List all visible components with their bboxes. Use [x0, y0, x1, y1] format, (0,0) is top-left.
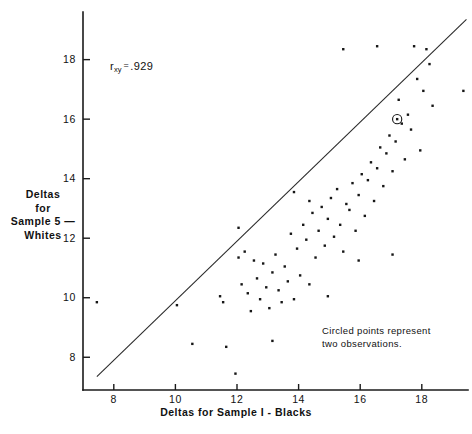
data-point — [293, 298, 295, 300]
data-point — [394, 140, 396, 142]
data-point — [462, 90, 464, 92]
data-point — [419, 149, 421, 151]
data-point — [317, 230, 319, 232]
data-point — [314, 256, 316, 258]
data-point — [305, 238, 307, 240]
tick-labels-group: 8101214161881012141618 — [63, 53, 428, 405]
data-point — [219, 295, 221, 297]
data-point — [431, 105, 433, 107]
x-axis-tick-label: 10 — [169, 393, 182, 405]
data-point — [324, 244, 326, 246]
data-point — [398, 99, 400, 101]
data-point — [428, 63, 430, 65]
data-point — [345, 203, 347, 205]
data-point — [342, 48, 344, 50]
data-point — [274, 253, 276, 255]
x-axis-title: Deltas for Sample I - Blacks — [0, 406, 472, 418]
correlation-subscript: xy — [114, 65, 122, 74]
data-point — [259, 298, 261, 300]
data-point — [96, 301, 98, 303]
data-point — [311, 212, 313, 214]
data-point — [361, 173, 363, 175]
data-point — [308, 200, 310, 202]
y-axis-tick-label: 14 — [63, 172, 76, 184]
data-point — [284, 265, 286, 267]
note-line-2: two observations. — [322, 337, 431, 350]
data-point — [225, 346, 227, 348]
data-point — [370, 161, 372, 163]
data-point — [234, 372, 236, 374]
data-point — [290, 233, 292, 235]
data-point — [382, 185, 384, 187]
data-point — [253, 259, 255, 261]
y-axis-title-line-2: for — [6, 202, 80, 216]
circled-point-dot — [396, 118, 398, 120]
y-axis-tick-label: 16 — [63, 113, 76, 125]
data-point — [176, 304, 178, 306]
y-axis-tick-label: 10 — [63, 291, 76, 303]
data-point — [422, 90, 424, 92]
data-point — [407, 113, 409, 115]
data-point — [299, 274, 301, 276]
data-point — [237, 227, 239, 229]
data-point — [308, 283, 310, 285]
data-point — [357, 194, 359, 196]
data-point — [296, 247, 298, 249]
data-point — [333, 236, 335, 238]
data-point — [388, 134, 390, 136]
correlation-equals: = — [124, 60, 130, 70]
data-point — [401, 122, 403, 124]
x-axis-tick-label: 12 — [231, 393, 244, 405]
data-point — [416, 78, 418, 80]
data-point — [376, 45, 378, 47]
x-axis-tick-label: 16 — [354, 393, 367, 405]
data-point — [256, 277, 258, 279]
scatter-plot-figure: 8101214161881012141618 rxy=.929 Circled … — [0, 0, 472, 434]
note-line-1: Circled points represent — [322, 324, 431, 337]
data-point — [244, 250, 246, 252]
data-point — [425, 48, 427, 50]
x-axis-tick-label: 18 — [415, 393, 428, 405]
data-point — [327, 218, 329, 220]
data-point — [413, 45, 415, 47]
data-point — [376, 167, 378, 169]
data-point — [280, 301, 282, 303]
data-point — [410, 128, 412, 130]
data-point — [287, 280, 289, 282]
data-point — [271, 271, 273, 273]
x-axis-tick-label: 8 — [111, 393, 117, 405]
data-point — [265, 286, 267, 288]
data-point — [364, 215, 366, 217]
data-point — [237, 256, 239, 258]
y-axis-title-line-4: Whites — [6, 229, 80, 243]
y-axis-title-line-1: Deltas — [6, 188, 80, 202]
data-point — [191, 343, 193, 345]
data-point — [327, 295, 329, 297]
circled-points-note: Circled points represent two observation… — [322, 324, 431, 350]
correlation-annotation: rxy=.929 — [110, 60, 153, 74]
circled-points-group — [393, 115, 402, 124]
data-point — [277, 289, 279, 291]
data-point — [391, 253, 393, 255]
data-point — [222, 301, 224, 303]
data-point — [342, 250, 344, 252]
data-point — [247, 292, 249, 294]
data-point — [348, 209, 350, 211]
data-point — [367, 179, 369, 181]
data-point — [404, 158, 406, 160]
y-axis-title: Deltas for Sample 5 — Whites — [6, 188, 80, 242]
y-axis-title-line-3: Sample 5 — — [6, 215, 80, 229]
data-point — [268, 307, 270, 309]
y-axis-tick-label: 18 — [63, 53, 76, 65]
correlation-value: .929 — [130, 60, 153, 72]
data-point — [330, 197, 332, 199]
data-point — [262, 262, 264, 264]
data-point — [385, 152, 387, 154]
data-point — [321, 206, 323, 208]
data-point — [351, 182, 353, 184]
data-point — [373, 200, 375, 202]
data-point — [391, 170, 393, 172]
data-point — [357, 259, 359, 261]
data-point — [379, 146, 381, 148]
data-point — [302, 224, 304, 226]
